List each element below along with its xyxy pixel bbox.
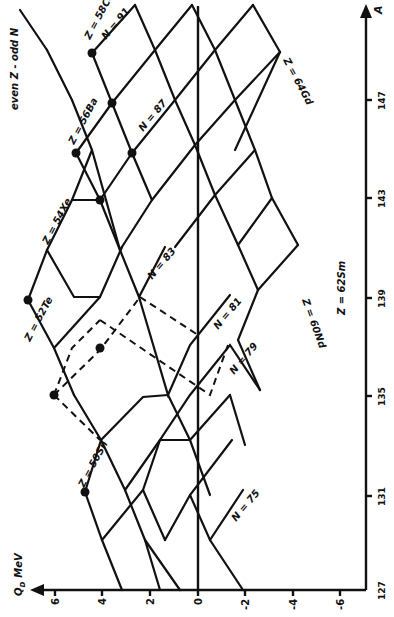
- a-tick-135: 135: [377, 387, 387, 406]
- label-z50: Z = 50Sn: [76, 439, 110, 490]
- a-axis-arrow-icon: [360, 4, 372, 18]
- a-tick-147: 147: [377, 91, 387, 110]
- q-axis-arrow-icon: [30, 584, 44, 596]
- q-tick-2: 2: [145, 598, 156, 605]
- a-tick-131: 131: [377, 487, 387, 506]
- q-tick-4: 4: [97, 598, 108, 605]
- a-tick-143: 143: [377, 189, 387, 208]
- q-tick-m2: -2: [240, 599, 251, 610]
- q-axis-label: QDMeV: [13, 552, 27, 596]
- label-z54: Z = 54Xe: [40, 196, 74, 247]
- a-axis: [360, 4, 372, 590]
- label-n83: N = 83: [145, 245, 178, 281]
- a-tick-139: 139: [377, 289, 387, 308]
- q-tick-0: 0: [193, 598, 204, 605]
- qd-vs-a-chart: even Z - odd N Z = 58Ce N = 91 Z = 56Ba …: [0, 0, 394, 617]
- label-z62: Z = 62Sm: [336, 261, 347, 316]
- a-tick-127: 127: [377, 581, 387, 600]
- label-z56: Z = 56Ba: [66, 96, 100, 147]
- a-axis-label: A: [372, 5, 385, 15]
- label-z60: Z = 60Nd: [300, 296, 329, 350]
- q-tick-6: 6: [50, 598, 61, 605]
- chart-title: even Z - odd N: [9, 27, 20, 110]
- nuclide-grid: [20, 5, 298, 590]
- q-tick-m6: -6: [335, 599, 346, 610]
- label-z64: Z = 64Gd: [281, 55, 316, 108]
- q-tick-m4: -4: [288, 599, 299, 610]
- svg-text:QDMeV: QDMeV: [13, 552, 27, 596]
- label-n79: N = 79: [227, 340, 260, 376]
